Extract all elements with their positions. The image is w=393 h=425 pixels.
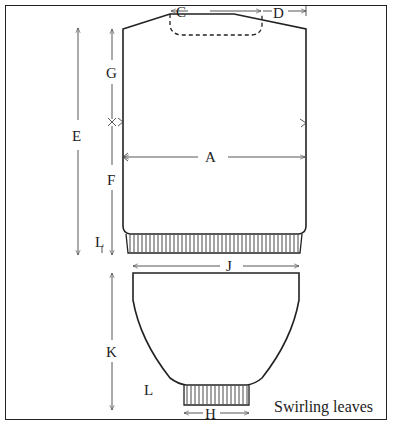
caption: Swirling leaves (274, 398, 373, 416)
label-f: F (107, 172, 115, 188)
body-piece (123, 14, 306, 253)
label-h: H (205, 406, 216, 422)
label-l-sleeve: L (144, 382, 153, 398)
label-j: J (226, 258, 232, 274)
sleeve-ribbing (187, 386, 247, 404)
label-d: D (273, 5, 284, 21)
label-c: C (176, 4, 186, 20)
knitting-schematic: C D G E F A L J K L H (0, 0, 393, 425)
label-l-body: L (95, 234, 104, 250)
body-ribbing (130, 235, 298, 252)
label-e: E (72, 128, 81, 144)
sleeve-piece (133, 273, 299, 405)
label-g: G (106, 65, 117, 81)
label-a: A (205, 149, 216, 165)
label-k: K (106, 344, 117, 360)
